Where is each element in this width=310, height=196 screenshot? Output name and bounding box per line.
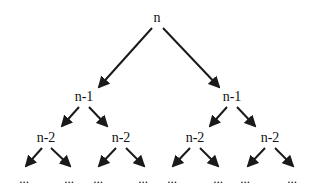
arrow-icon <box>163 28 219 87</box>
arrow-icon <box>99 148 116 166</box>
tree-node-label: n-1 <box>223 89 242 104</box>
tree-node-label: n <box>154 10 161 25</box>
arrow-icon <box>126 148 144 166</box>
arrow-icon <box>248 148 265 166</box>
arrow-icon <box>62 107 79 126</box>
ellipsis-node: ... <box>93 171 103 186</box>
ellipsis-node: ... <box>240 171 250 186</box>
recursion-tree-diagram: nn-1n-1n-2n-2n-2n-2.....................… <box>0 0 310 196</box>
ellipsis-node: ... <box>167 171 177 186</box>
tree-node-label: n-2 <box>37 130 56 145</box>
arrow-icon <box>89 107 107 126</box>
tree-node-label: n-2 <box>112 130 131 145</box>
arrow-icon <box>275 148 293 166</box>
tree-node-label: n-2 <box>261 130 280 145</box>
edges-group <box>26 28 293 166</box>
arrow-icon <box>210 107 227 126</box>
tree-node-label: n-2 <box>186 130 205 145</box>
ellipsis-node: ... <box>213 171 223 186</box>
arrow-icon <box>99 28 152 87</box>
tree-svg: nn-1n-1n-2n-2n-2n-2.....................… <box>0 0 310 196</box>
arrow-icon <box>200 148 218 166</box>
tree-node-label: n-1 <box>75 89 94 104</box>
ellipsis-node: ... <box>19 171 29 186</box>
arrow-icon <box>26 148 42 166</box>
ellipsis-node: ... <box>138 171 148 186</box>
ellipsis-node: ... <box>287 171 297 186</box>
arrow-icon <box>173 148 190 166</box>
arrow-icon <box>237 107 255 126</box>
arrow-icon <box>51 148 70 166</box>
ellipsis-node: ... <box>64 171 74 186</box>
